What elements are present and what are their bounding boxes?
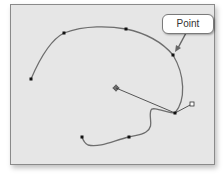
bezier-path[interactable] bbox=[31, 27, 183, 146]
anchor-point-corner[interactable] bbox=[174, 112, 177, 115]
direction-handle-crosshair-icon[interactable] bbox=[113, 85, 120, 92]
anchor-point[interactable] bbox=[125, 28, 128, 31]
callout-arrow-icon bbox=[175, 33, 186, 52]
anchor-point[interactable] bbox=[63, 32, 66, 35]
direction-line-left bbox=[116, 88, 175, 113]
point-callout-label: Point bbox=[162, 14, 214, 34]
anchor-point-end-left[interactable] bbox=[30, 78, 33, 81]
direction-handle-hollow-icon[interactable] bbox=[190, 102, 194, 106]
anchor-point-highlighted[interactable] bbox=[172, 54, 175, 57]
anchor-point-end-bottom[interactable] bbox=[81, 136, 84, 139]
anchor-point[interactable] bbox=[128, 136, 131, 139]
